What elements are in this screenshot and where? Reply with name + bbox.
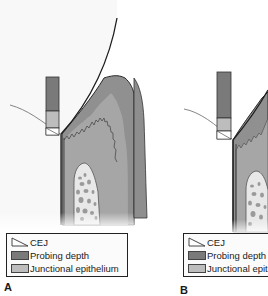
legend-panel-b: CEJ Probing depth Junctional epit [183, 233, 268, 277]
legend-label: CEJ [30, 237, 48, 248]
legend-item-probing-depth: Probing depth [11, 249, 89, 261]
panel-label-b: B [180, 284, 188, 296]
cej-triangle-icon [11, 237, 29, 247]
legend-label: Probing depth [207, 250, 266, 261]
probing-depth-bar-b [217, 72, 231, 118]
legend-label: Probing depth [30, 250, 89, 261]
probing-depth-swatch [11, 251, 29, 260]
junctional-epithelium-swatch [188, 264, 206, 273]
panel-b-illustration [134, 72, 268, 236]
legend-item-cej: CEJ [11, 236, 48, 248]
legend-item-junctional-epithelium: Junctional epithelium [11, 262, 119, 274]
probing-depth-swatch [188, 251, 206, 260]
cej-triangle-icon [188, 237, 206, 247]
legend-label: CEJ [207, 237, 225, 248]
bottom-fade-b [134, 170, 268, 236]
legend-item-cej: CEJ [188, 236, 225, 248]
panel-label-a: A [4, 281, 12, 293]
bottom-fade [0, 160, 134, 230]
legend-item-probing-depth: Probing depth [188, 249, 266, 261]
legend-label: Junctional epit [207, 263, 268, 274]
legend-item-junctional-epithelium: Junctional epit [188, 262, 268, 274]
panel-a-illustration [0, 0, 134, 230]
legend-panel-a: CEJ Probing depth Junctional epithelium [6, 233, 128, 277]
junctional-epithelium-swatch [11, 264, 29, 273]
junctional-epithelium-bar-b [217, 118, 231, 131]
junctional-epithelium-bar [46, 111, 59, 128]
legend-label: Junctional epithelium [30, 263, 119, 274]
probing-depth-bar [46, 77, 59, 111]
